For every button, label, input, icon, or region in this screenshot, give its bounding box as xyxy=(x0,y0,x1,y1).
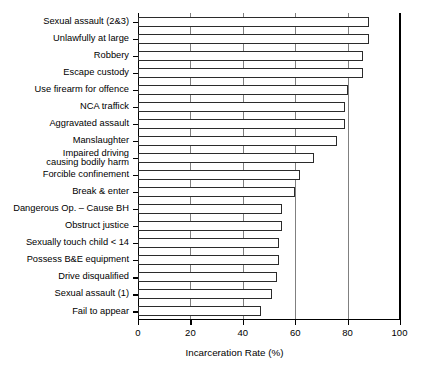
y-axis-label: Escape custody xyxy=(0,64,133,81)
y-axis-label: Possess B&E equipment xyxy=(0,252,133,269)
y-axis-label: Forcible confinement xyxy=(0,166,133,183)
bar xyxy=(138,238,279,248)
y-tick xyxy=(133,73,138,74)
y-tick xyxy=(133,56,138,57)
x-axis-title: Incarceration Rate (%) xyxy=(185,347,283,358)
y-axis-label: Manslaughter xyxy=(0,132,133,149)
y-axis-label: Unlawfully at large xyxy=(0,30,133,47)
y-tick xyxy=(133,107,138,108)
bar-row xyxy=(138,183,400,200)
y-axis-label: Sexually touch child < 14 xyxy=(0,235,133,252)
y-tick xyxy=(133,294,138,295)
x-tick-label: 100 xyxy=(392,327,408,338)
y-tick xyxy=(133,243,138,244)
bar-row xyxy=(138,47,400,64)
x-tick-40 xyxy=(243,320,244,325)
y-axis-label: Robbery xyxy=(0,47,133,64)
bar xyxy=(138,17,369,27)
bar xyxy=(138,187,295,197)
x-tick-label: 80 xyxy=(342,327,353,338)
y-tick xyxy=(133,39,138,40)
x-tick-60 xyxy=(295,320,296,325)
bar-row xyxy=(138,30,400,47)
y-axis-label: Impaired driving causing bodily harm xyxy=(0,149,133,166)
y-axis-label: Break & enter xyxy=(0,183,133,200)
x-tick-label: 40 xyxy=(238,327,249,338)
y-axis-label: Aggravated assault xyxy=(0,115,133,132)
y-axis-label: NCA traffick xyxy=(0,98,133,115)
bar-row xyxy=(138,13,400,30)
y-tick xyxy=(133,141,138,142)
bar xyxy=(138,34,369,44)
x-tick-0 xyxy=(138,320,139,325)
bar xyxy=(138,306,261,316)
y-tick xyxy=(133,311,138,312)
x-tick-100 xyxy=(400,320,401,325)
bar xyxy=(138,85,348,95)
y-axis-labels: Sexual assault (2&3) Unlawfully at large… xyxy=(0,13,133,320)
bar-row xyxy=(138,252,400,269)
bar-row xyxy=(138,166,400,183)
bar xyxy=(138,51,363,61)
y-tick xyxy=(133,192,138,193)
bar xyxy=(138,221,282,231)
bar xyxy=(138,204,282,214)
y-tick xyxy=(133,22,138,23)
x-axis-title-wrap: Incarceration Rate (%) xyxy=(0,347,433,358)
bar xyxy=(138,272,277,282)
bar-row xyxy=(138,115,400,132)
bar-row xyxy=(138,64,400,81)
bar xyxy=(138,68,363,78)
y-tick xyxy=(133,175,138,176)
y-axis-label: Use firearm for offence xyxy=(0,81,133,98)
bar xyxy=(138,289,272,299)
bar-row xyxy=(138,286,400,303)
y-tick xyxy=(133,90,138,91)
bar-row xyxy=(138,81,400,98)
bar-row xyxy=(138,201,400,218)
x-tick-label: 60 xyxy=(290,327,301,338)
y-axis-label: Obstruct justice xyxy=(0,218,133,235)
bar-row xyxy=(138,303,400,320)
y-tick xyxy=(133,226,138,227)
bar-series xyxy=(138,13,400,320)
x-tick-20 xyxy=(190,320,191,325)
y-axis-label: Drive disqualified xyxy=(0,269,133,286)
bar xyxy=(138,255,279,265)
bar xyxy=(138,119,345,129)
bar-row xyxy=(138,149,400,166)
x-tick-label: 20 xyxy=(185,327,196,338)
y-tick xyxy=(133,260,138,261)
y-tick xyxy=(133,277,138,278)
bar-row xyxy=(138,98,400,115)
bar-row xyxy=(138,218,400,235)
bar-row xyxy=(138,269,400,286)
bar xyxy=(138,153,314,163)
y-tick xyxy=(133,124,138,125)
y-axis-label: Fail to appear xyxy=(0,303,133,320)
y-axis-label: Dangerous Op. – Cause BH xyxy=(0,201,133,218)
x-tick-80 xyxy=(348,320,349,325)
bar xyxy=(138,136,337,146)
bar xyxy=(138,170,300,180)
y-tick xyxy=(133,158,138,159)
y-axis-label: Sexual assault (2&3) xyxy=(0,13,133,30)
x-tick-label: 0 xyxy=(135,327,140,338)
y-tick xyxy=(133,209,138,210)
bar xyxy=(138,102,345,112)
y-axis-label: Sexual assault (1) xyxy=(0,286,133,303)
bar-row xyxy=(138,132,400,149)
bar-row xyxy=(138,235,400,252)
bar-chart: Sexual assault (2&3) Unlawfully at large… xyxy=(0,0,433,372)
